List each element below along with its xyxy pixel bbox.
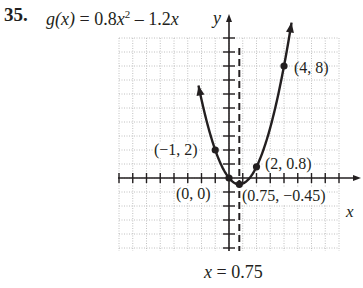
point-label-4-8: (4, 8) xyxy=(293,60,330,76)
axis-of-symmetry-label: x = 0.75 xyxy=(204,262,263,283)
asym-var: x xyxy=(204,262,212,282)
point-label-neg1-2: (−1, 2) xyxy=(153,142,199,158)
point-label-2-0.8: (2, 0.8) xyxy=(264,156,313,172)
point-label-vertex: (0.75, −0.45) xyxy=(241,188,327,204)
asym-value: = 0.75 xyxy=(212,262,263,282)
x-axis-label: x xyxy=(346,202,354,222)
point-label-0-0: (0, 0) xyxy=(175,186,212,202)
